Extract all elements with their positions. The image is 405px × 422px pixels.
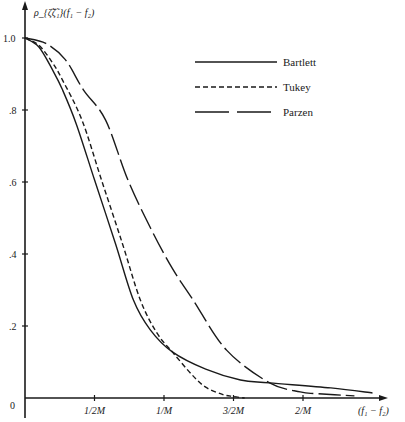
chart: 0.2.4.6.81.0 1/2M1/M3/2M2/M ρ_{ζ̃ζ̃₁}(f₁… (0, 0, 405, 422)
legend-label-parzen: Parzen (283, 106, 313, 118)
y-axis-label: ρ_{ζ̃ζ̃₁}(f₁ − f₂) (33, 7, 95, 19)
y-tick-label: .4 (9, 249, 17, 260)
legend: BartlettTukeyParzen (195, 56, 316, 118)
legend-label-bartlett: Bartlett (283, 56, 316, 68)
x-tick-label: 1/2M (84, 405, 106, 416)
y-axis-arrow-icon (22, 1, 28, 10)
x-axis-arrow-icon (379, 395, 388, 401)
y-tick-label: 1.0 (3, 33, 16, 44)
y-tick-label: .8 (9, 105, 17, 116)
x-axis (25, 395, 388, 401)
series-line-bartlett (25, 38, 373, 393)
series-line-tukey (25, 38, 245, 398)
y-tick-label: 0 (10, 400, 15, 411)
y-tick-label: .2 (9, 321, 17, 332)
y-tick-label: .6 (9, 177, 17, 188)
series-lines (25, 38, 373, 398)
x-tick-label: 1/M (156, 405, 173, 416)
x-tick-label: 3/2M (222, 405, 245, 416)
legend-label-tukey: Tukey (283, 81, 311, 93)
y-axis (22, 1, 28, 418)
x-tick-label: 2/M (295, 405, 312, 416)
x-axis-label: (f₁ − f₂) (358, 405, 390, 417)
